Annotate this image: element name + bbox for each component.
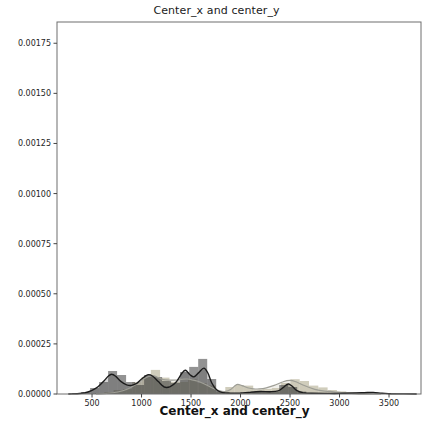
y-tick-label: 0.00150 bbox=[18, 89, 51, 98]
y-tick-label: 0.00175 bbox=[18, 39, 51, 48]
figure: Center_x and center_y 500100015002000250… bbox=[0, 0, 433, 432]
axes-spines bbox=[57, 22, 421, 394]
y-tick-label: 0.00025 bbox=[18, 340, 51, 349]
y-tick-label: 0.00000 bbox=[18, 390, 51, 399]
y-tick-label: 0.00050 bbox=[18, 290, 51, 299]
x-axis-label: Center_x and center_y bbox=[36, 404, 433, 418]
y-tick-label: 0.00075 bbox=[18, 240, 51, 249]
plot-area: 5001000150020002500300035000.000000.0002… bbox=[0, 0, 433, 432]
y-tick-label: 0.00100 bbox=[18, 190, 51, 199]
y-tick-label: 0.00125 bbox=[18, 139, 51, 148]
